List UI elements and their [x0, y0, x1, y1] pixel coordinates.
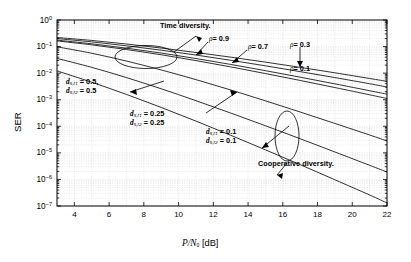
x-tick-label: 8	[132, 210, 156, 219]
annotation-distance-025: ds,r1 = 0.25 ds,r2 = 0.25	[130, 110, 164, 128]
distance-01-value1: = 0.1	[220, 127, 236, 136]
annotation-rho-01: ρ= 0.1	[290, 65, 310, 73]
figure-ser-vs-snr: 10010−110−210−310−410−510−610−7 46810121…	[0, 0, 411, 262]
y-tick-label: 100	[16, 15, 52, 25]
x-tick-label: 14	[236, 210, 260, 219]
distance-01-value2: = 0.1	[220, 136, 236, 145]
distance-025-value1: = 0.25	[144, 109, 165, 118]
distance-025-value2: = 0.25	[144, 118, 165, 127]
x-axis-label-symbol: P/N	[182, 238, 196, 248]
x-axis-label-unit: [dB]	[199, 238, 218, 248]
annotation-cooperative-diversity: Cooperative diversity.	[258, 160, 334, 168]
x-axis-label: P/N0 [dB]	[182, 238, 218, 248]
plot-background	[57, 20, 387, 206]
y-tick-label: 10−6	[16, 174, 52, 184]
distance-05-line2: ds,r2 = 0.5	[66, 87, 98, 96]
annotation-time-diversity: Time diversity.	[160, 22, 210, 30]
annotation-rho-09: ρ= 0.9	[209, 35, 229, 43]
rho-03-value: = 0.3	[294, 40, 310, 49]
distance-05-value2: = 0.5	[80, 86, 96, 95]
y-tick-label: 10−5	[16, 147, 52, 157]
x-tick-label: 20	[340, 210, 364, 219]
rho-07-value: = 0.7	[252, 42, 268, 51]
d-subscript-index: 2	[215, 140, 217, 145]
d-subscript-index: 2	[139, 122, 141, 127]
x-tick-label: 18	[306, 210, 330, 219]
y-tick-label: 10−7	[16, 201, 52, 211]
rho-09-value: = 0.9	[213, 34, 229, 43]
rho-01-value: = 0.1	[294, 64, 310, 73]
y-tick-label: 10−3	[16, 94, 52, 104]
x-tick-label: 6	[97, 210, 121, 219]
distance-05-value1: = 0.5,	[80, 77, 98, 86]
annotation-distance-05: ds,r1 = 0.5, ds,r2 = 0.5	[66, 78, 98, 96]
annotation-rho-07: ρ= 0.7	[248, 43, 268, 51]
y-tick-label: 10−2	[16, 68, 52, 78]
x-tick-label: 22	[375, 210, 399, 219]
distance-01-line2: ds,r2 = 0.1	[206, 137, 236, 146]
x-tick-label: 10	[167, 210, 191, 219]
y-axis-label: SER	[12, 112, 23, 132]
x-tick-label: 12	[201, 210, 225, 219]
x-tick-label: 16	[271, 210, 295, 219]
x-tick-label: 4	[62, 210, 86, 219]
annotation-distance-01: ds,r1 = 0.1 ds,r2 = 0.1	[206, 128, 236, 146]
annotation-rho-03: ρ= 0.3	[290, 41, 310, 49]
d-subscript-index: 2	[75, 90, 77, 95]
y-tick-label: 10−1	[16, 41, 52, 51]
distance-025-line2: ds,r2 = 0.25	[130, 119, 164, 128]
